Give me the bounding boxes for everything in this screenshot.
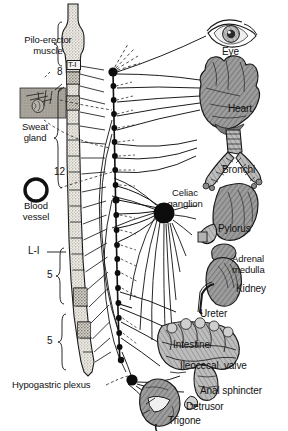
label-blood-vessel: Blood vessel bbox=[8, 201, 64, 222]
fibers-to-heart bbox=[117, 74, 200, 130]
label-pylorus: Pylorus bbox=[218, 224, 251, 235]
skin-inset bbox=[20, 84, 66, 118]
label-ileocecal-valve: Ileocecal valve bbox=[180, 361, 247, 372]
label-thoracic-count: 12 bbox=[54, 167, 65, 178]
superior-cervical-ganglion bbox=[108, 67, 117, 76]
label-trigone: Trigone bbox=[168, 416, 201, 427]
label-kidney: Kidney bbox=[236, 284, 266, 295]
label-sacral-count: 5 bbox=[47, 336, 52, 347]
label-thoracic-one: T-I bbox=[68, 60, 76, 71]
label-lumbar-count: 5 bbox=[47, 270, 52, 281]
label-sweat-gland: Sweat gland bbox=[8, 122, 62, 143]
eye-illustration bbox=[207, 20, 257, 47]
label-heart: Heart bbox=[228, 104, 252, 115]
sympathetic-nervous-system-figure: Pilo-erector muscle Sweat gland Blood ve… bbox=[0, 0, 288, 431]
heart-illustration bbox=[200, 56, 260, 135]
label-ureter: Ureter bbox=[200, 309, 227, 320]
label-detrusor: Detrusor bbox=[186, 402, 224, 413]
label-celiac-ganglion: Celiac ganglion bbox=[158, 188, 212, 209]
label-piloerector-muscle: Pilo-erector muscle bbox=[8, 35, 88, 56]
fiber-to-eye bbox=[117, 36, 206, 72]
fibers-to-bronchi bbox=[117, 140, 197, 173]
label-anal-sphincter: Anal sphincter bbox=[200, 386, 262, 397]
label-intestine: Intestine bbox=[173, 340, 210, 351]
bronchi-illustration bbox=[203, 130, 262, 191]
spinal-cord bbox=[62, 4, 94, 376]
cervical-rami bbox=[112, 44, 140, 72]
fibers-to-celiac bbox=[117, 186, 159, 242]
label-hypogastric-plexus: Hypogastric plexus bbox=[12, 380, 90, 391]
label-bronchi: Bronchi bbox=[222, 165, 255, 176]
label-cervical-count: 8 bbox=[57, 67, 62, 78]
label-eye: Eye bbox=[222, 47, 239, 58]
label-lumbar-one: L-I bbox=[28, 246, 39, 257]
label-adrenal-medulla: Adrenal medulla bbox=[232, 254, 265, 275]
blood-vessel-ring bbox=[25, 179, 47, 201]
